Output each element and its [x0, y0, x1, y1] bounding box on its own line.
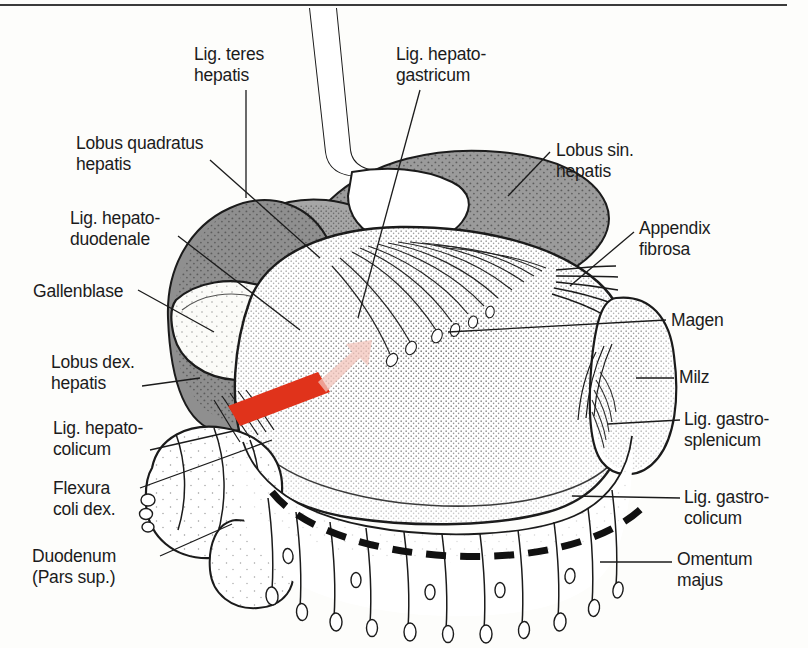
organ-magen — [235, 227, 634, 524]
page-root: Lig. tereshepatisLig. hepato-gastricumLo… — [0, 0, 808, 648]
figure-canvas — [0, 0, 808, 648]
anatomical-figure — [0, 0, 808, 648]
